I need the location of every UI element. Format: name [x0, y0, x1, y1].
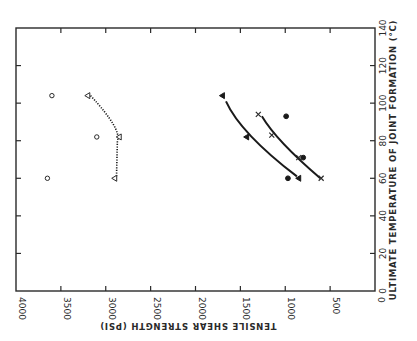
strength-tick-label: 4000	[17, 297, 27, 320]
filled-circle-marker	[284, 114, 289, 119]
strength-axis-title: TENSILE SHEAR STRENGTH (PSI)	[99, 321, 276, 331]
temperature-tick-label: 140	[378, 19, 388, 36]
temperature-tick-label: 80	[378, 135, 388, 147]
temperature-tick-label: 60	[378, 172, 388, 184]
open-triangle-marker	[112, 175, 117, 181]
temperature-tick-label: 120	[378, 57, 388, 74]
strength-tick-label: 2500	[152, 297, 162, 320]
filled-triangle-curve	[226, 101, 297, 176]
strength-tick-label: 2000	[197, 297, 207, 320]
open-circle-marker	[45, 176, 49, 180]
strength-tick-label: 1500	[241, 297, 251, 320]
cross-curve	[262, 116, 320, 178]
temperature-tick-label: 0	[378, 288, 388, 294]
strength-axis: 05001000150020002500300035004000	[17, 28, 386, 320]
plot-frame	[16, 28, 375, 291]
strength-tick-label: 3000	[107, 297, 117, 320]
temperature-tick-label: 20	[378, 247, 388, 259]
filled-triangle-marker	[244, 134, 249, 140]
temperature-axis: 020406080100120140	[16, 19, 388, 294]
strength-tick-label: 1000	[286, 297, 296, 320]
cross-marker	[256, 112, 261, 117]
strength-tick-label: 500	[331, 297, 341, 314]
filled-triangle-marker	[219, 93, 224, 99]
fit-curves	[91, 96, 321, 179]
open-circle-marker	[50, 93, 54, 97]
strength-tick-label: 3500	[62, 297, 72, 320]
strength-tick-label: 0	[376, 297, 386, 303]
temperature-tick-label: 100	[378, 94, 388, 111]
temperature-tick-label: 40	[378, 210, 388, 222]
filled-circle-marker	[301, 155, 306, 160]
filled-circle-marker	[286, 176, 291, 181]
data-markers	[45, 93, 323, 182]
cross-marker	[269, 133, 274, 138]
rotated-scatter-chart: 05001000150020002500300035004000 0204060…	[0, 0, 417, 341]
open-circle-marker	[95, 135, 99, 139]
open-triangle-marker	[85, 93, 90, 99]
temperature-axis-title: ULTIMATE TEMPERATURE OF JOINT FORMATION …	[388, 20, 398, 300]
